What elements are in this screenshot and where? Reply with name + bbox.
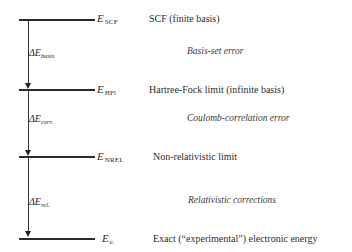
delta-symbol: ΔE [29,113,41,124]
level-description-hfl: Hartree-Fock limit (infinite basis) [149,85,284,95]
arrowhead-down-icon [25,83,31,89]
energy-symbol: E [102,232,109,244]
energy-subscript: HFl [105,89,117,97]
energy-subscript: SCF [105,18,118,26]
energy-label-hfl: EHFl [97,84,116,95]
level-line-scf [19,19,95,21]
arrowhead-down-icon [25,150,31,156]
energy-label-exact: Ee. [102,233,115,244]
arrow-rel [28,158,29,232]
arrowhead-down-icon [25,231,31,237]
energy-level-diagram: ESCF EHFl ENREL Ee. ΔEbasis ΔEcorr. ΔEre… [0,0,352,252]
level-line-hfl [19,89,95,91]
delta-symbol: ΔE [29,47,41,58]
delta-label-corr: ΔEcorr. [29,114,53,124]
energy-label-nrel: ENREL [97,151,124,162]
energy-symbol: E [97,12,104,24]
delta-subscript: rel. [41,201,50,208]
energy-subscript: e. [110,238,115,246]
energy-symbol: E [97,150,104,162]
energy-symbol: E [97,83,104,95]
error-label-basis: Basis-set error [187,47,243,57]
delta-symbol: ΔE [29,196,41,207]
level-description-scf: SCF (finite basis) [149,14,220,24]
delta-label-basis: ΔEbasis [29,48,54,58]
energy-label-scf: ESCF [97,13,118,24]
level-line-nrel [19,156,95,158]
error-label-rel: Relativistic corrections [188,196,276,206]
delta-label-rel: ΔErel. [29,197,50,207]
level-description-nrel: Non-relativistic limit [153,152,237,162]
delta-subscript: basis [41,52,54,59]
level-line-exact [19,238,95,240]
delta-subscript: corr. [41,118,53,125]
level-description-exact: Exact (“experimental”) electronic energy [153,234,317,244]
error-label-corr: Coulomb-correlation error [187,114,289,124]
energy-subscript: NREL [105,156,124,164]
